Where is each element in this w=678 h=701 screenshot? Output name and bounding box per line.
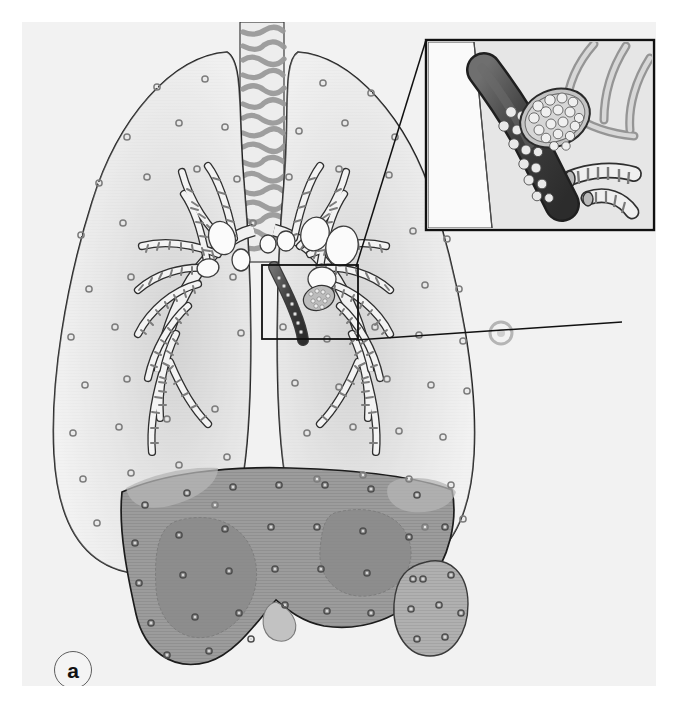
figure-root: a (0, 0, 678, 701)
magnified-inset (426, 40, 654, 230)
spleen (394, 561, 468, 656)
anatomy-illustration (22, 22, 656, 686)
illustration-panel: a (22, 22, 656, 686)
panel-label: a (54, 651, 92, 686)
